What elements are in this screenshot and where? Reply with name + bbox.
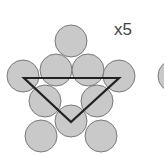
circle [81,85,113,117]
circle [55,25,87,57]
circle [158,60,164,92]
circles-group [7,25,164,152]
pentagon-circle-diagram [0,0,164,155]
circle [29,85,61,117]
circle [40,54,72,86]
multiplier-label: x5 [114,20,132,40]
circle [25,120,57,152]
circle [85,120,117,152]
circle [72,54,104,86]
